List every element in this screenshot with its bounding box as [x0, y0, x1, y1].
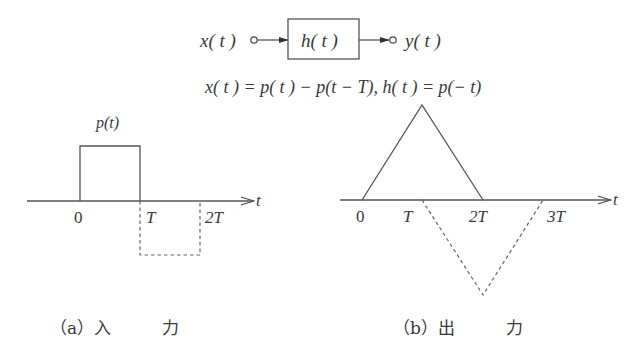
system-label: h( t ): [301, 30, 338, 52]
pulse-p-t: [80, 146, 140, 201]
caption-a: （a）入 力: [50, 318, 179, 338]
tick-0-a: 0: [74, 208, 83, 227]
tick-2T-a: 2T: [205, 208, 225, 227]
axis-label-t-b: t: [613, 190, 619, 209]
caption-b: （b）出 力: [393, 318, 523, 338]
tick-3T-b: 3T: [546, 207, 567, 226]
output-triangle-positive: [362, 105, 483, 200]
equation-text: x( t ) = p( t ) − p(t − T), h( t ) = p(−…: [204, 77, 481, 98]
input-label: x( t ): [199, 30, 236, 52]
input-terminal-icon: [251, 37, 257, 43]
block-diagram: x( t ) h( t ) y( t ): [199, 19, 441, 59]
pulse-label: p(t): [95, 114, 119, 132]
diagram-canvas: x( t ) h( t ) y( t ) x( t ) = p( t ) − p…: [0, 0, 639, 362]
tick-T-a: T: [146, 208, 157, 227]
output-label: y( t ): [403, 30, 441, 52]
tick-T-b: T: [403, 207, 414, 226]
output-terminal-icon: [390, 37, 396, 43]
tick-0-b: 0: [356, 207, 365, 226]
panel-a-input: p(t) t 0 T 2T: [27, 114, 262, 255]
axis-label-t-a: t: [256, 191, 262, 210]
tick-2T-b: 2T: [469, 207, 489, 226]
panel-b-output: t 0 T 2T 3T: [340, 105, 619, 295]
